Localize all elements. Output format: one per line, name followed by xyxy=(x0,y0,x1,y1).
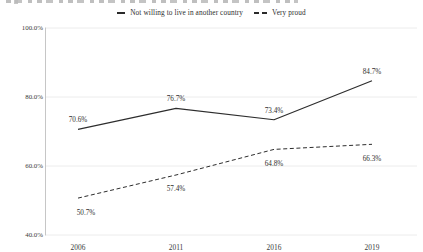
line-chart-figure: Not willing to live in another country V… xyxy=(0,0,423,252)
data-point-label: 66.3% xyxy=(363,155,382,163)
data-point-label: 73.4% xyxy=(265,107,284,115)
y-tick-label: 60.0% xyxy=(25,162,43,169)
x-tick-label: 2019 xyxy=(365,243,380,252)
y-tick-label: 80.0% xyxy=(25,93,43,100)
y-tick-label: 40.0% xyxy=(25,231,43,238)
line-chart-svg: 100.0%80.0%60.0%40.0%200620112016201970.… xyxy=(0,0,423,252)
x-tick-label: 2016 xyxy=(267,243,282,252)
data-point-label: 84.7% xyxy=(363,68,382,76)
series-line-solid xyxy=(78,81,372,130)
data-point-label: 70.6% xyxy=(69,116,88,124)
x-tick-label: 2006 xyxy=(71,243,86,252)
data-point-label: 50.7% xyxy=(77,209,96,217)
plot-area: 100.0%80.0%60.0%40.0%200620112016201970.… xyxy=(0,0,423,252)
series-line-dashed xyxy=(78,144,372,198)
data-point-label: 57.4% xyxy=(167,185,186,193)
data-point-label: 76.7% xyxy=(167,95,186,103)
y-tick-label: 100.0% xyxy=(22,24,44,31)
data-point-label: 64.8% xyxy=(265,160,284,168)
x-tick-label: 2011 xyxy=(169,243,184,252)
